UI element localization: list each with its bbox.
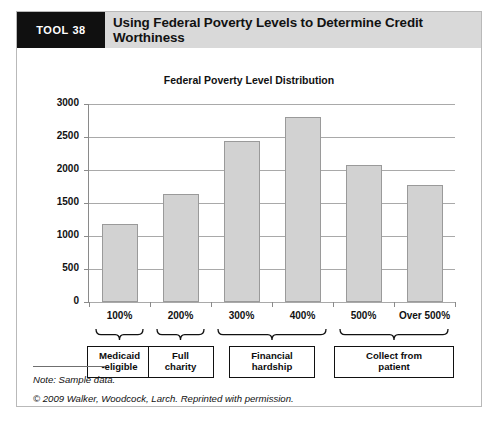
tool-card: TOOL 38 Using Federal Poverty Levels to …: [16, 11, 482, 407]
group-box-label: Fullcharity: [165, 351, 196, 372]
x-tick-mark: [394, 302, 395, 307]
bar-500-: [346, 165, 382, 302]
x-tick-label: 300%: [211, 310, 272, 321]
group-box: Financialhardship: [229, 346, 315, 378]
plot-area: 050010001500200025003000100%200%300%400%…: [89, 104, 455, 302]
tool-number-badge: TOOL 38: [17, 12, 105, 48]
chart-container: Federal Poverty Level Distribution Patie…: [17, 48, 481, 406]
y-tick-mark: [84, 236, 89, 237]
gridline: [89, 137, 455, 138]
group-box-label: Financialhardship: [251, 351, 293, 372]
group-brace: [217, 328, 327, 342]
y-tick-label: 3000: [37, 97, 79, 108]
y-tick-label: 1500: [37, 196, 79, 207]
gridline: [89, 236, 455, 237]
group-box-label: Medicaid-eligible: [99, 351, 140, 372]
group-box: Collect frompatient: [334, 346, 454, 378]
group-box-label: Collect frompatient: [366, 351, 422, 372]
bar-400-: [285, 117, 321, 302]
bar-200-: [163, 194, 199, 302]
note-text: Note: Sample data.: [33, 374, 115, 385]
x-tick-mark: [455, 302, 456, 307]
x-tick-label: 200%: [150, 310, 211, 321]
x-tick-label: Over 500%: [394, 310, 455, 321]
x-tick-mark: [89, 302, 90, 307]
group-box: Fullcharity: [148, 346, 214, 378]
footer-divider: [33, 366, 105, 367]
y-tick-label: 500: [37, 262, 79, 273]
y-tick-mark: [84, 137, 89, 138]
gridline: [89, 170, 455, 171]
card-header: TOOL 38 Using Federal Poverty Levels to …: [17, 12, 481, 48]
bar-over-500-: [407, 185, 443, 302]
x-tick-mark: [150, 302, 151, 307]
group-brace: [95, 328, 144, 342]
x-tick-mark: [211, 302, 212, 307]
page-root: TOOL 38 Using Federal Poverty Levels to …: [0, 0, 498, 431]
y-tick-label: 2500: [37, 130, 79, 141]
x-tick-label: 400%: [272, 310, 333, 321]
y-tick-mark: [84, 104, 89, 105]
x-tick-label: 100%: [89, 310, 150, 321]
gridline: [89, 203, 455, 204]
y-tick-label: 2000: [37, 163, 79, 174]
gridline: [89, 104, 455, 105]
group-brace: [156, 328, 205, 342]
y-tick-label: 1000: [37, 229, 79, 240]
x-tick-label: 500%: [333, 310, 394, 321]
chart-title: Federal Poverty Level Distribution: [17, 74, 481, 86]
y-tick-mark: [84, 269, 89, 270]
gridline: [89, 269, 455, 270]
x-tick-mark: [272, 302, 273, 307]
group-brace: [339, 328, 449, 342]
bar-100-: [102, 224, 138, 302]
copyright-text: © 2009 Walker, Woodcock, Larch. Reprinte…: [33, 393, 294, 404]
y-tick-mark: [84, 170, 89, 171]
y-tick-label: 0: [37, 295, 79, 306]
y-tick-mark: [84, 203, 89, 204]
page-title: Using Federal Poverty Levels to Determin…: [113, 12, 475, 48]
x-tick-mark: [333, 302, 334, 307]
bar-300-: [224, 141, 260, 302]
